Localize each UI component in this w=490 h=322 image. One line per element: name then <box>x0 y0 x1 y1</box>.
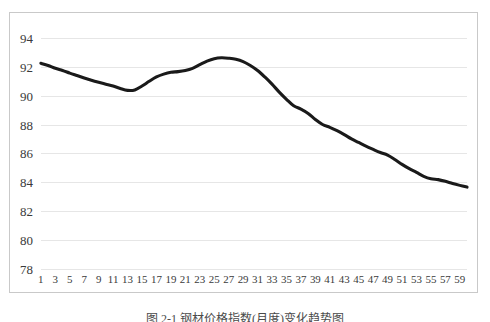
x-axis-tick-label: 51 <box>397 273 408 285</box>
x-axis-tick-label: 25 <box>209 273 220 285</box>
data-line-series-1 <box>41 58 467 187</box>
x-axis-tick-label: 5 <box>67 273 73 285</box>
gridlines-group <box>41 39 467 269</box>
y-axis-tick-label: 80 <box>20 233 33 248</box>
y-axis-tick-label: 88 <box>20 118 33 133</box>
x-axis-tick-label: 55 <box>425 273 436 285</box>
x-axis-tick-label: 35 <box>281 273 292 285</box>
x-axis-tick-label: 19 <box>165 273 176 285</box>
x-axis-tick-label: 41 <box>324 273 335 285</box>
x-axis-tick-label: 33 <box>267 273 278 285</box>
x-axis-tick-label: 39 <box>310 273 321 285</box>
x-axis-tick-label: 43 <box>339 273 350 285</box>
y-axis-tick-label: 92 <box>20 60 33 75</box>
x-axis-tick-label: 49 <box>382 273 393 285</box>
x-axis-tick-labels: 1357911131517192123252729313335373941434… <box>38 273 466 285</box>
x-axis-tick-label: 9 <box>96 273 102 285</box>
y-axis-tick-label: 78 <box>20 262 33 277</box>
x-axis-tick-label: 47 <box>368 273 379 285</box>
figure-container: 949290888684828078 135791113151719212325… <box>0 0 490 322</box>
y-axis-tick-labels: 949290888684828078 <box>20 31 33 276</box>
x-axis-tick-label: 45 <box>353 273 364 285</box>
x-axis-tick-label: 1 <box>38 273 43 285</box>
chart-frame: 949290888684828078 135791113151719212325… <box>9 12 478 293</box>
x-axis-tick-label: 29 <box>238 273 249 285</box>
line-chart: 949290888684828078 135791113151719212325… <box>10 13 477 292</box>
x-axis-tick-label: 53 <box>411 273 422 285</box>
figure-caption: 图 2-1 钢材价格指数(月度)变化趋势图 <box>0 312 490 322</box>
y-axis-tick-label: 94 <box>20 31 33 46</box>
x-axis-tick-label: 21 <box>180 273 191 285</box>
x-axis-tick-label: 57 <box>440 273 451 285</box>
y-axis-tick-label: 84 <box>20 175 33 190</box>
x-axis-tick-label: 7 <box>81 273 87 285</box>
y-axis-tick-label: 90 <box>20 89 33 104</box>
figure-caption-container: 图 2-1 钢材价格指数(月度)变化趋势图 <box>0 312 490 322</box>
x-axis-tick-label: 27 <box>223 273 234 285</box>
y-axis-tick-label: 82 <box>20 204 33 219</box>
x-axis-tick-label: 31 <box>252 273 263 285</box>
x-axis-tick-label: 15 <box>137 273 148 285</box>
x-axis-tick-label: 3 <box>53 273 59 285</box>
x-axis-tick-label: 59 <box>454 273 465 285</box>
x-axis-tick-label: 13 <box>122 273 133 285</box>
y-axis-tick-label: 86 <box>20 146 33 161</box>
x-axis-tick-label: 37 <box>295 273 306 285</box>
data-series-group <box>41 58 467 187</box>
x-axis-tick-label: 11 <box>108 273 119 285</box>
x-axis-tick-label: 17 <box>151 273 162 285</box>
x-axis-tick-label: 23 <box>194 273 205 285</box>
